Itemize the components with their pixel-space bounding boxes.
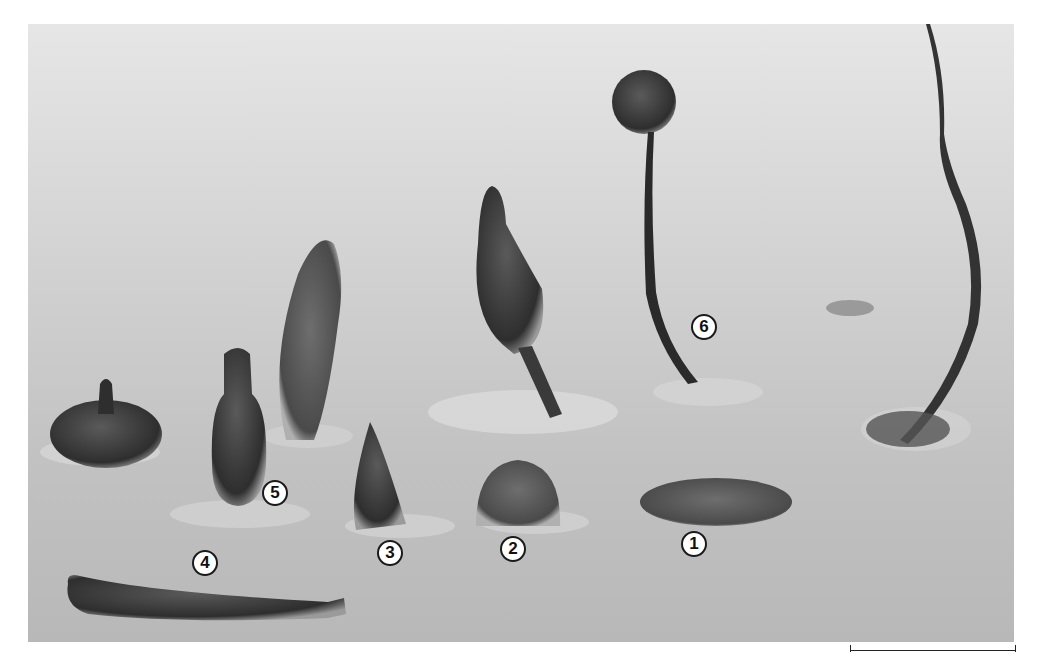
stage-label-5: 5 [262,480,288,506]
stage-label-1: 1 [681,531,707,557]
scale-bar [850,650,1016,656]
stage-label-4: 4 [192,550,218,576]
stage-label-3: 3 [377,540,403,566]
stage-label-6: 6 [691,314,717,340]
stage-label-2: 2 [500,536,526,562]
